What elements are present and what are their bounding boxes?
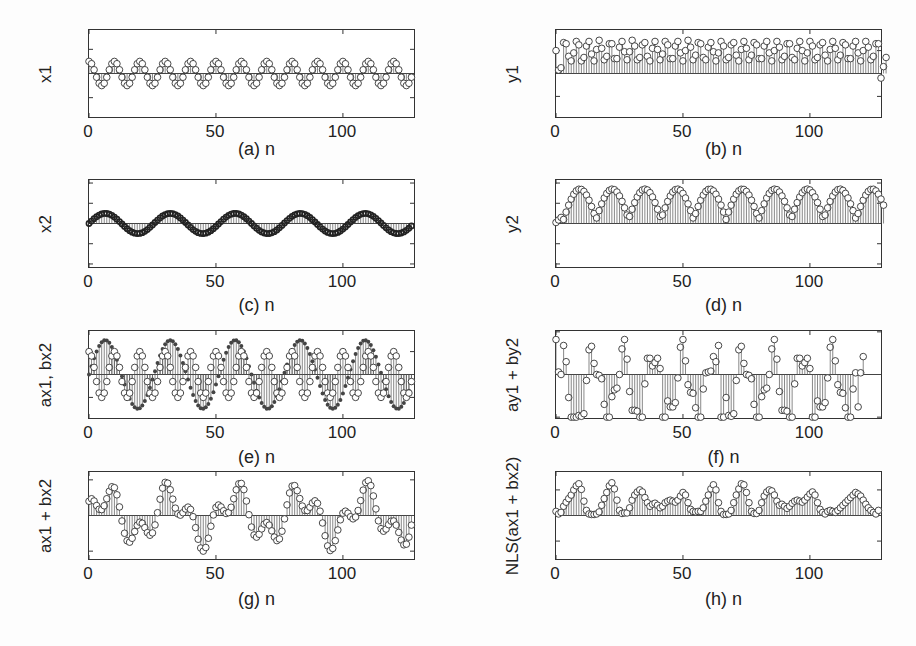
x-tick-label: 100 <box>789 564 829 584</box>
plot-area-g <box>88 471 415 560</box>
x-tick-label: 0 <box>68 122 108 142</box>
subplot-caption: (c) n <box>197 295 317 316</box>
subplot-caption: (e) n <box>197 447 317 468</box>
stem-plot-d <box>556 180 883 269</box>
x-tick-label: 0 <box>68 423 108 443</box>
x-tick-label: 50 <box>195 564 235 584</box>
x-tick-label: 100 <box>322 564 362 584</box>
x-tick-label: 50 <box>195 272 235 292</box>
stem-plot-h <box>556 472 883 561</box>
plot-area-d <box>555 179 882 268</box>
stem-plot-e <box>89 331 416 420</box>
y-axis-label: ax1 + bx2 <box>36 436 56 596</box>
subplot-caption: (g) n <box>197 589 317 610</box>
x-tick-label: 50 <box>195 423 235 443</box>
stem-plot-c <box>89 180 416 269</box>
x-tick-label: 0 <box>535 423 575 443</box>
x-tick-label: 100 <box>789 272 829 292</box>
subplot-caption: (d) n <box>664 295 784 316</box>
plot-area-a <box>88 29 415 118</box>
y-axis-label: ax1, bx2 <box>36 295 56 455</box>
y-axis-label: y2 <box>503 144 523 304</box>
x-tick-label: 50 <box>662 564 702 584</box>
subplot-caption: (f) n <box>664 447 784 468</box>
x-tick-label: 100 <box>322 423 362 443</box>
subplot-caption: (b) n <box>664 139 784 160</box>
x-tick-label: 100 <box>789 122 829 142</box>
y-axis-label: x1 <box>36 0 56 154</box>
x-tick-label: 0 <box>535 564 575 584</box>
subplot-caption: (h) n <box>664 589 784 610</box>
x-tick-label: 100 <box>322 272 362 292</box>
x-tick-label: 0 <box>535 122 575 142</box>
subplot-caption: (a) n <box>197 139 317 160</box>
plot-area-c <box>88 179 415 268</box>
plot-area-e <box>88 330 415 419</box>
plot-area-b <box>555 29 882 118</box>
y-axis-label: NLS(ax1 + bx2) <box>503 436 523 596</box>
x-tick-label: 50 <box>662 423 702 443</box>
y-axis-label: x2 <box>36 144 56 304</box>
stem-plot-a <box>89 30 416 119</box>
x-tick-label: 0 <box>68 564 108 584</box>
x-tick-label: 100 <box>322 122 362 142</box>
stem-plot-f <box>556 331 883 420</box>
x-tick-label: 0 <box>68 272 108 292</box>
plot-area-f <box>555 330 882 419</box>
plot-area-h <box>555 471 882 560</box>
x-tick-label: 0 <box>535 272 575 292</box>
stem-plot-g <box>89 472 416 561</box>
x-tick-label: 50 <box>662 272 702 292</box>
y-axis-label: y1 <box>503 0 523 154</box>
stem-plot-b <box>556 30 883 119</box>
x-tick-label: 100 <box>789 423 829 443</box>
y-axis-label: ay1 + by2 <box>503 295 523 455</box>
